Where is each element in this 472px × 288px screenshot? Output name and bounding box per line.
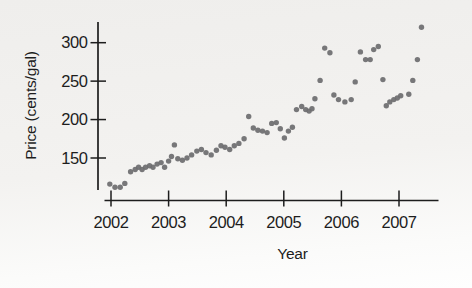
axes — [98, 22, 439, 201]
data-point — [251, 125, 256, 130]
y-tick-label: 200 — [61, 110, 88, 128]
data-point — [118, 185, 123, 190]
data-point — [371, 47, 376, 52]
data-point — [175, 156, 180, 161]
data-point — [290, 125, 295, 130]
figure-page: 200220032004200520062007150200250300 Pri… — [0, 0, 472, 288]
data-point — [269, 121, 274, 126]
x-tick-label: 2002 — [93, 213, 128, 231]
gas-price-scatterplot: 200220032004200520062007150200250300 Pri… — [0, 0, 472, 288]
data-point — [312, 96, 317, 101]
data-point — [317, 78, 322, 83]
y-tick-label: 150 — [61, 149, 88, 167]
x-tick-label: 2007 — [381, 213, 416, 231]
data-point — [260, 128, 265, 133]
data-point — [214, 148, 219, 153]
y-tick-label: 250 — [61, 72, 88, 90]
data-point — [199, 147, 204, 152]
x-tick-label: 2004 — [209, 213, 244, 231]
data-point — [194, 148, 199, 153]
data-point — [376, 44, 381, 49]
data-point — [166, 158, 171, 163]
data-point — [322, 45, 327, 50]
data-point — [419, 25, 424, 30]
data-point — [162, 165, 167, 170]
x-tick-label: 2006 — [324, 213, 359, 231]
data-point — [282, 135, 287, 140]
x-tick-label: 2003 — [151, 213, 186, 231]
data-point — [180, 158, 185, 163]
data-point — [241, 136, 246, 141]
data-point — [363, 57, 368, 62]
data-point — [184, 155, 189, 160]
data-point — [203, 150, 208, 155]
y-tick-label: 300 — [61, 33, 88, 51]
data-point — [286, 128, 291, 133]
data-point — [189, 152, 194, 157]
data-point — [112, 185, 117, 190]
data-point — [264, 130, 269, 135]
data-point — [246, 114, 251, 119]
data-point — [336, 97, 341, 102]
data-point — [222, 145, 227, 150]
data-point — [227, 147, 232, 152]
data-point — [294, 107, 299, 112]
data-point — [128, 169, 133, 174]
data-point — [278, 126, 283, 131]
data-point — [172, 142, 177, 147]
y-axis-title: Price (cents/gal) — [22, 51, 39, 160]
x-axis-title: Year — [277, 245, 308, 262]
data-point — [236, 141, 241, 146]
data-points — [107, 25, 424, 190]
data-point — [309, 106, 314, 111]
data-point — [158, 160, 163, 165]
data-point — [327, 50, 332, 55]
x-tick-label: 2005 — [266, 213, 301, 231]
data-point — [331, 92, 336, 97]
data-point — [410, 78, 415, 83]
data-point — [368, 57, 373, 62]
data-point — [209, 152, 214, 157]
tick-marks — [91, 43, 400, 207]
data-point — [380, 77, 385, 82]
data-point — [274, 120, 279, 125]
data-point — [349, 97, 354, 102]
data-point — [398, 93, 403, 98]
data-point — [406, 92, 411, 97]
data-point — [232, 143, 237, 148]
data-point — [415, 57, 420, 62]
data-point — [255, 128, 260, 133]
data-point — [169, 154, 174, 159]
data-point — [107, 181, 112, 186]
data-point — [358, 49, 363, 54]
data-point — [122, 181, 127, 186]
data-point — [342, 99, 347, 104]
data-point — [353, 79, 358, 84]
